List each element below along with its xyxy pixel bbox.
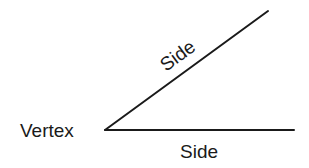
upper-side-ray — [105, 11, 268, 130]
angle-diagram: Vertex Side Side — [0, 0, 309, 168]
vertex-label: Vertex — [20, 120, 74, 141]
lower-side-label: Side — [180, 141, 218, 162]
upper-side-label: Side — [156, 36, 199, 75]
